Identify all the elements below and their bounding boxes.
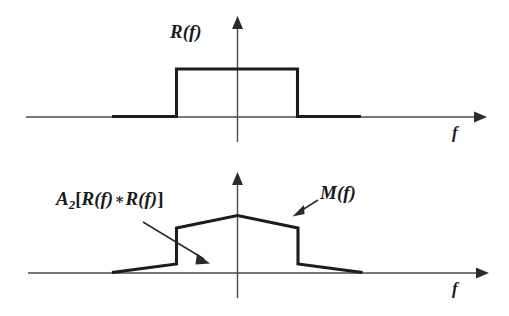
mf-annotation-arrowhead <box>293 205 305 217</box>
a2-first-term: R(f) <box>82 188 114 209</box>
bottom-signal-label: M(f) <box>320 183 356 202</box>
top-signal-label: R(f) <box>170 22 202 41</box>
top-panel-group <box>26 16 487 142</box>
top-vertical-axis-arrowhead <box>232 16 243 29</box>
figure-canvas <box>0 0 509 316</box>
bottom-horizontal-axis-arrowhead <box>476 268 489 279</box>
top-horizontal-axis-arrowhead <box>474 112 487 123</box>
a2-bracket-close: ] <box>157 188 163 209</box>
figure-container: R(f) f A2[R(f)∗R(f)] M(f) f <box>0 0 509 316</box>
a2-annotation-arrowhead <box>196 254 211 265</box>
a2-second-term: R(f) <box>126 188 158 209</box>
top-axis-label: f <box>452 124 458 141</box>
a2-annotation-leader-line <box>143 222 204 259</box>
bottom-axis-label: f <box>452 280 458 297</box>
convolution-operator-icon: ∗ <box>113 191 125 207</box>
annotation-leaders <box>143 200 318 265</box>
convolution-annotation-label: A2[R(f)∗R(f)] <box>56 189 164 211</box>
a2-prefix: A <box>56 188 69 209</box>
bottom-vertical-axis-arrowhead <box>232 172 243 185</box>
rect-pulse-trace <box>112 69 361 117</box>
